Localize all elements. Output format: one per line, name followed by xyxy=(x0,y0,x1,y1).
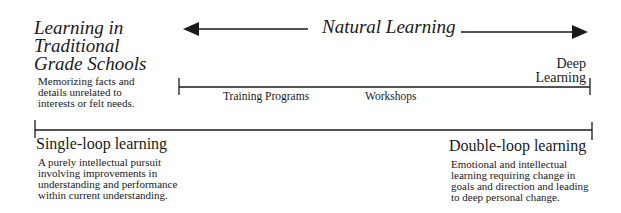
description-line: to deep personal change. xyxy=(451,192,588,203)
natural-learning-label: Natural Learning xyxy=(322,16,456,38)
arrow-right-head-icon xyxy=(572,25,588,39)
arrow-left-head-icon xyxy=(183,22,199,36)
description-line: within current understanding. xyxy=(38,190,177,201)
training-programs-label: Training Programs xyxy=(223,90,309,102)
description-line: interests or felt needs. xyxy=(38,98,135,109)
traditional-schools-heading: Learning in Traditional Grade Schools xyxy=(34,19,146,73)
single-loop-title: Single-loop learning xyxy=(36,135,167,153)
single-loop-description: A purely intellectual pursuit involving … xyxy=(38,157,177,201)
deep-learning-line: Learning xyxy=(528,71,586,85)
traditional-schools-description: Memorizing facts and details unrelated t… xyxy=(38,76,135,109)
deep-learning-line: Deep xyxy=(528,57,586,71)
double-loop-description: Emotional and intellectual learning requ… xyxy=(451,159,588,203)
double-loop-title: Double-loop learning xyxy=(449,137,586,155)
heading-line: Grade Schools xyxy=(34,55,146,73)
workshops-label: Workshops xyxy=(365,90,416,102)
deep-learning-label: Deep Learning xyxy=(528,57,586,85)
